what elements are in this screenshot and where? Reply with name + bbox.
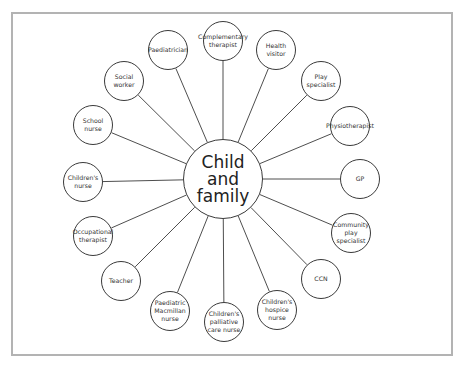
node-label: Play specialist [307,73,336,89]
connector-line [238,216,269,292]
node-health-visitor: Health visitor [256,30,296,70]
node-physiotherapist: Physiotherapist [330,106,370,146]
connector-line [223,219,224,302]
node-children-s-palliative-care-nurse: Children's palliative care nurse [204,302,244,342]
connector-line [260,195,333,226]
node-label: Community play specialist [333,221,369,245]
connector-line [111,133,186,164]
node-social-worker: Social worker [104,61,144,101]
node-label: Health visitor [266,42,286,58]
node-label: Paediatrician [148,46,188,54]
node-gp: GP [340,159,380,199]
node-ccn: CCN [301,259,341,299]
connector-line [260,134,332,164]
node-label: GP [356,175,365,183]
node-community-play-specialist: Community play specialist [331,213,371,253]
connector-line [251,95,307,151]
node-label: Children's nurse [68,174,99,190]
node-label: CCN [314,275,327,283]
node-complementary-therapist: Complementary therapist [203,21,243,61]
connector-line [177,216,208,292]
node-label: Children's palliative care nurse [208,310,241,334]
node-paediatrician: Paediatrician [148,30,188,70]
node-label: School nurse [83,117,104,133]
node-label: Social worker [113,73,134,89]
connector-line [238,68,268,142]
node-play-specialist: Play specialist [301,61,341,101]
center-label: Child and family [197,154,249,205]
node-label: Teacher [109,277,133,285]
node-children-s-nurse: Children's nurse [63,162,103,202]
node-label: Complementary therapist [198,33,248,49]
node-school-nurse: School nurse [73,105,113,145]
center-node-child-and-family: Child and family [183,139,263,219]
node-label: Paediatric Macmillan nurse [154,299,185,323]
node-label: Occupational therapist [73,228,114,244]
connector-line [111,195,186,228]
connector-line [251,208,307,265]
node-label: Children's hospice nurse [258,298,296,322]
connector-line [176,68,207,142]
connector-line [138,95,194,151]
node-paediatric-macmillan-nurse: Paediatric Macmillan nurse [150,291,190,331]
connector-line [135,207,195,267]
node-occupational-therapist: Occupational therapist [73,216,113,256]
node-teacher: Teacher [101,261,141,301]
connector-line [103,180,183,182]
node-children-s-hospice-nurse: Children's hospice nurse [257,290,297,330]
node-label: Physiotherapist [326,122,374,130]
